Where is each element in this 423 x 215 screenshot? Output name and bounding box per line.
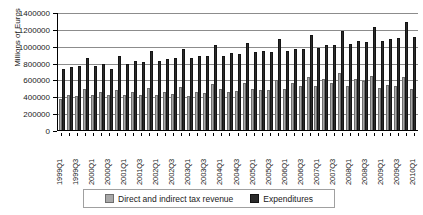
- x-tick-mark: [270, 133, 271, 136]
- x-tick-mark: [85, 133, 86, 136]
- bar-group: [162, 13, 170, 131]
- bar-group: [345, 13, 353, 131]
- x-tick-mark: [326, 133, 327, 136]
- bar-expenditures: [86, 58, 89, 131]
- x-tick-mark: [101, 133, 102, 136]
- bar-expenditures: [341, 31, 344, 131]
- bar-group: [90, 13, 98, 131]
- x-tick-label: 2008Q3: [360, 159, 369, 185]
- x-tick-mark: [382, 133, 383, 136]
- x-tick-label: 2002Q3: [167, 159, 176, 185]
- bar-group: [298, 13, 306, 131]
- x-tick-label: 2004Q3: [232, 159, 241, 185]
- x-tick-label: 2005Q1: [248, 159, 257, 185]
- x-tick-label: 2000Q1: [87, 159, 96, 185]
- x-tick-label: 2010Q1: [408, 159, 417, 185]
- bar-expenditures: [78, 66, 81, 131]
- x-tick-mark: [69, 133, 70, 136]
- legend-label-expenditures: Expenditures: [263, 194, 313, 204]
- bar-expenditures: [325, 45, 328, 131]
- x-tick-mark: [278, 133, 279, 136]
- bar-group: [170, 13, 178, 131]
- x-tick-label: 2003Q1: [183, 159, 192, 185]
- bar-group: [234, 13, 242, 131]
- x-tick-mark: [302, 133, 303, 136]
- bar-group: [186, 13, 194, 131]
- bar-expenditures: [365, 42, 368, 131]
- x-tick-mark: [77, 133, 78, 136]
- y-tick-label: 1400000: [19, 9, 50, 18]
- bar-expenditures: [389, 39, 392, 131]
- x-tick-mark: [358, 133, 359, 136]
- y-tick-label: 400000: [23, 93, 50, 102]
- x-tick-mark: [229, 133, 230, 136]
- bar-group: [393, 13, 401, 131]
- bar-group: [178, 13, 186, 131]
- x-tick-label: 2002Q1: [151, 159, 160, 185]
- x-tick-mark: [221, 133, 222, 136]
- y-tick-mark: [53, 131, 57, 132]
- legend-swatch-revenue: [105, 194, 114, 203]
- x-tick-mark: [189, 133, 190, 136]
- bar-group: [138, 13, 146, 131]
- bar-group: [114, 13, 122, 131]
- x-tick-mark: [294, 133, 295, 136]
- x-tick-mark: [286, 133, 287, 136]
- x-tick-mark: [310, 133, 311, 136]
- x-tick-mark: [254, 133, 255, 136]
- bar-expenditures: [190, 58, 193, 131]
- bar-expenditures: [246, 43, 249, 131]
- bar-group: [202, 13, 210, 131]
- bar-group: [154, 13, 162, 131]
- bar-group: [194, 13, 202, 131]
- bar-expenditures: [270, 52, 273, 131]
- bar-group: [66, 13, 74, 131]
- bar-group: [266, 13, 274, 131]
- bar-group: [329, 13, 337, 131]
- bar-group: [122, 13, 130, 131]
- bar-expenditures: [102, 64, 105, 131]
- bar-expenditures: [198, 56, 201, 131]
- bar-expenditures: [166, 59, 169, 131]
- x-tick-label: 2004Q1: [215, 159, 224, 185]
- bar-expenditures: [254, 52, 257, 131]
- x-tick-mark: [125, 133, 126, 136]
- bar-expenditures: [174, 58, 177, 131]
- bar-group: [409, 13, 417, 131]
- legend-item-revenue: Direct and indirect tax revenue: [105, 194, 233, 204]
- x-tick-mark: [262, 133, 263, 136]
- x-tick-label: 2006Q1: [280, 159, 289, 185]
- x-tick-mark: [213, 133, 214, 136]
- x-tick-mark: [318, 133, 319, 136]
- y-tick-label: 600000: [23, 76, 50, 85]
- bar-group: [361, 13, 369, 131]
- bar-expenditures: [214, 45, 217, 131]
- legend-label-revenue: Direct and indirect tax revenue: [118, 194, 233, 204]
- x-tick-label: 1999Q1: [55, 159, 64, 185]
- bar-expenditures: [310, 35, 313, 131]
- y-axis-ticks: 0200000400000600000800000100000012000001…: [0, 13, 57, 131]
- bar-expenditures: [134, 61, 137, 131]
- x-axis-ticks: 1999Q11999Q32000Q12000Q32001Q12001Q32002…: [57, 133, 418, 185]
- bar-expenditures: [294, 49, 297, 131]
- bar-expenditures: [238, 54, 241, 131]
- bar-expenditures: [317, 48, 320, 131]
- x-tick-label: 2007Q1: [312, 159, 321, 185]
- bar-group: [258, 13, 266, 131]
- x-tick-mark: [414, 133, 415, 136]
- y-axis-line: [57, 13, 58, 131]
- bar-group: [74, 13, 82, 131]
- x-tick-label: 2001Q3: [135, 159, 144, 185]
- bar-expenditures: [94, 66, 97, 131]
- x-tick-mark: [350, 133, 351, 136]
- x-tick-mark: [149, 133, 150, 136]
- x-tick-mark: [61, 133, 62, 136]
- x-tick-label: 2005Q3: [264, 159, 273, 185]
- bar-group: [321, 13, 329, 131]
- legend-swatch-expenditures: [250, 194, 259, 203]
- bar-expenditures: [158, 61, 161, 131]
- chart-legend: Direct and indirect tax revenue Expendit…: [83, 189, 335, 208]
- x-tick-label: 2001Q1: [119, 159, 128, 185]
- x-tick-mark: [406, 133, 407, 136]
- bar-expenditures: [126, 64, 129, 131]
